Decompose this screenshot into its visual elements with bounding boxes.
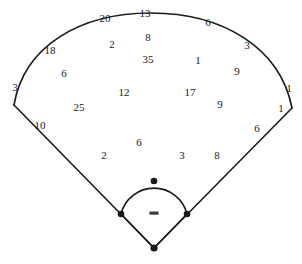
- infield-arc: [121, 188, 187, 214]
- second-base-marker: [151, 178, 158, 185]
- zone-count-label: 1: [278, 103, 284, 114]
- zone-count-label: 9: [217, 99, 223, 110]
- zone-count-label: 1: [286, 83, 292, 94]
- zone-count-label: 6: [136, 137, 142, 148]
- zone-count-label: 6: [205, 17, 211, 28]
- zone-count-label: 8: [145, 32, 151, 43]
- baseball-field-spray-chart: 20136182836351931217125911066238: [0, 0, 302, 264]
- zone-count-label: 6: [61, 68, 67, 79]
- zone-count-label: 18: [45, 45, 56, 56]
- zone-count-label: 1: [195, 55, 201, 66]
- zone-count-label: 3: [179, 150, 185, 161]
- zone-count-label: 25: [74, 102, 85, 113]
- zone-count-label: 8: [214, 150, 220, 161]
- home-plate-marker: [150, 244, 157, 251]
- zone-count-label: 20: [100, 13, 111, 24]
- zone-count-label: 35: [143, 54, 154, 65]
- zone-count-label: 6: [254, 123, 260, 134]
- zone-count-label: 17: [185, 87, 196, 98]
- home-to-first-baseline: [154, 214, 187, 248]
- zone-count-label: 9: [234, 66, 240, 77]
- pitchers-rubber-marker: [150, 212, 159, 215]
- zone-count-label: 10: [35, 120, 46, 131]
- zone-count-label: 2: [109, 39, 115, 50]
- zone-count-label: 2: [101, 150, 107, 161]
- zone-count-label: 13: [140, 8, 151, 19]
- zone-count-label: 12: [119, 87, 130, 98]
- home-to-third-baseline: [121, 214, 154, 248]
- third-base-marker: [118, 211, 125, 218]
- zone-count-label: 3: [244, 40, 250, 51]
- zone-count-label: 3: [12, 82, 18, 93]
- first-base-marker: [184, 211, 191, 218]
